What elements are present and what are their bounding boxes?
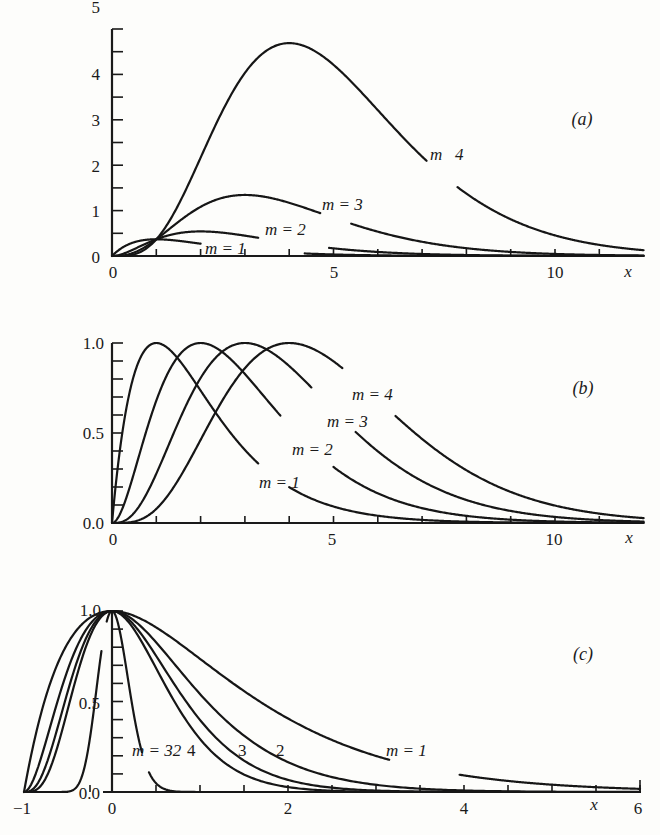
panel-b-curve-m1 <box>112 343 644 523</box>
panel-a-xtick-0: 0 <box>109 263 118 282</box>
panel-a-curves <box>112 43 644 256</box>
panel-c-label-m2: 2 <box>276 741 285 760</box>
panel-b-xtick-5: 5 <box>328 530 337 549</box>
panel-c-xtick-4: 4 <box>460 799 469 818</box>
panel-c-xtick-neg1: −1 <box>13 799 31 818</box>
panel-c-xtick-6: 6 <box>634 799 643 818</box>
panel-b-title: (b) <box>573 378 594 399</box>
panel-a-title: (a) <box>572 109 593 130</box>
panel-b-label-m4: m = 4 <box>352 385 393 404</box>
panel-c-ytick-1.0: 1.0 <box>80 601 101 620</box>
panel-a-axes <box>112 29 642 256</box>
panel-c-xtick-0: 0 <box>108 799 117 818</box>
panel-a-xtick-5: 5 <box>330 263 339 282</box>
panel-a-ytick-4: 4 <box>92 65 101 84</box>
panel-b-ytick-0.5: 0.5 <box>83 424 104 443</box>
panel-a-curve-m4 <box>112 43 644 256</box>
panel-b-ytick-1.0: 1.0 <box>83 334 104 353</box>
panel-a-xlabel: x <box>623 262 632 281</box>
panel-b-xtick-0: 0 <box>109 530 118 549</box>
panel-b-axes <box>112 343 642 523</box>
panel-b-xtick-10: 10 <box>546 530 563 549</box>
panel-a: 5 4 3 2 1 0 0 5 10 x (a) m 4 m = 3 m = 2… <box>92 0 644 282</box>
panel-c-ytick-0.0: 0.0 <box>79 784 100 803</box>
panel-a-label-m3: m = 3 <box>322 195 363 214</box>
panel-c-label-m4: 4 <box>187 741 196 760</box>
figure: 5 4 3 2 1 0 0 5 10 x (a) m 4 m = 3 m = 2… <box>0 0 660 835</box>
panel-a-ytick-3: 3 <box>92 111 101 130</box>
panel-b-curve-m3 <box>112 343 644 523</box>
panel-c-title: (c) <box>573 644 593 665</box>
panel-b-ytick-0.0: 0.0 <box>83 514 104 533</box>
panel-b-label-m3: m = 3 <box>327 412 368 431</box>
panel-b-curve-m2 <box>112 343 644 523</box>
panel-a-curve-m3 <box>112 195 644 256</box>
panel-b-xlabel: x <box>624 528 633 547</box>
panel-c: 1.0 0.5 0.0 −1 0 2 4 6 x (c) m = 1 2 3 4… <box>13 601 642 818</box>
panel-c-ytick-0.5: 0.5 <box>79 694 100 713</box>
panel-c-label-m3: 3 <box>238 741 247 760</box>
panel-b-curves <box>112 343 644 523</box>
panel-c-label-m32: m = 32 <box>132 741 182 760</box>
panel-b-curve-m4 <box>112 343 644 523</box>
panel-a-xtick-10: 10 <box>547 263 564 282</box>
panel-b-label-m2: m = 2 <box>292 440 333 459</box>
panel-a-curve-m2 <box>112 231 644 256</box>
panel-a-ytick-2: 2 <box>92 157 101 176</box>
panel-c-xtick-2: 2 <box>284 799 293 818</box>
panel-b-label-m1: m = 1 <box>259 473 300 492</box>
panel-c-label-m1: m = 1 <box>386 741 427 760</box>
panel-a-ytick-0: 0 <box>92 248 101 267</box>
panel-b: 1.0 0.5 0.0 0 5 10 x (b) m = 4 m = 3 m =… <box>83 334 644 549</box>
panel-c-axes <box>25 611 640 792</box>
panel-a-ytick-1: 1 <box>92 202 101 221</box>
panel-a-ytick-5: 5 <box>92 0 101 17</box>
panel-a-label-m1: m = 1 <box>205 239 246 258</box>
panel-a-label-m4: m 4 <box>430 145 464 164</box>
panel-c-xlabel: x <box>589 795 598 814</box>
panel-a-label-m2: m = 2 <box>265 220 306 239</box>
